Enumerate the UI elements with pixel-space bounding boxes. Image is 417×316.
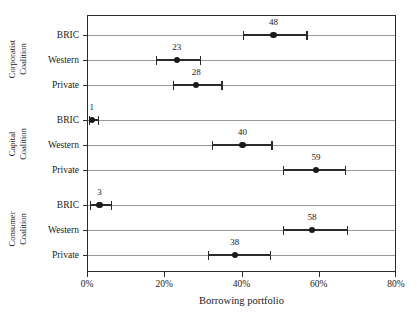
marker-dot: [239, 142, 246, 149]
x-axis-title: Borrowing portfolio: [87, 295, 396, 306]
marker-dot: [193, 82, 200, 89]
y-axis-tick: [83, 230, 88, 231]
point-value-label: 38: [230, 238, 239, 247]
gridline: [88, 60, 395, 61]
error-bar-cap-high: [270, 251, 271, 260]
y-axis-tick: [83, 35, 88, 36]
gridline: [88, 35, 395, 36]
gridline: [88, 120, 395, 121]
x-axis-tick-label: 60%: [310, 279, 327, 289]
gridline: [88, 170, 395, 171]
x-axis-tick: [164, 272, 165, 277]
point-value-label: 59: [311, 153, 320, 162]
point-value-label: 28: [192, 68, 201, 77]
error-bar-cap-low: [243, 31, 244, 40]
marker-dot: [174, 57, 181, 64]
y-axis-tick: [83, 145, 88, 146]
error-bar-cap-low: [212, 141, 213, 150]
plot-area: 4823281405935838: [87, 15, 396, 272]
error-bar-cap-low: [208, 251, 209, 260]
error-bar-cap-high: [221, 81, 222, 90]
error-bar-cap-high: [347, 226, 348, 235]
y-axis-label-capital-coalition-private: Private: [52, 165, 79, 175]
y-axis-tick: [83, 120, 88, 121]
marker-dot: [89, 117, 96, 124]
point-value-label: 40: [238, 128, 247, 137]
y-axis-label-corporatist-coalition-western: Western: [48, 55, 79, 65]
x-axis-tick: [242, 272, 243, 277]
marker-dot: [96, 202, 103, 209]
gridline: [88, 230, 395, 231]
x-axis-tick-label: 0%: [81, 279, 94, 289]
y-axis-tick: [83, 85, 88, 86]
gridline: [88, 205, 395, 206]
x-axis-tick-label: 80%: [387, 279, 404, 289]
y-axis-label-capital-coalition-western: Western: [48, 140, 79, 150]
error-bar-cap-high: [111, 201, 112, 210]
point-value-label: 23: [172, 43, 181, 52]
error-bar-cap-low: [283, 226, 284, 235]
error-bar-cap-high: [98, 116, 99, 125]
error-bar-cap-high: [200, 56, 201, 65]
y-axis-label-consumer-coalition-western: Western: [48, 225, 79, 235]
y-axis-label-corporatist-coalition-private: Private: [52, 80, 79, 90]
x-axis-tick: [395, 272, 396, 277]
point-value-label: 48: [269, 18, 278, 27]
error-bar-cap-low: [283, 166, 284, 175]
y-axis-tick: [83, 170, 88, 171]
x-axis-tick: [87, 272, 88, 277]
dot-whisker-chart: CorporatistCoalitionCapitalCoalitionCons…: [0, 0, 417, 316]
marker-dot: [232, 252, 239, 259]
y-axis-label-consumer-coalition-private: Private: [52, 250, 79, 260]
error-bar-cap-low: [156, 56, 157, 65]
point-value-label: 58: [308, 213, 317, 222]
x-axis-tick: [319, 272, 320, 277]
error-bar-cap-low: [90, 201, 91, 210]
y-axis-tick: [83, 60, 88, 61]
error-bar-cap-high: [271, 141, 272, 150]
error-bar-cap-high: [306, 31, 307, 40]
y-axis-label-corporatist-coalition-bric: BRIC: [57, 30, 79, 40]
gridline: [88, 85, 395, 86]
error-bar: [208, 254, 270, 255]
point-value-label: 3: [97, 188, 102, 197]
y-axis-tick: [83, 205, 88, 206]
y-axis-label-capital-coalition-bric: BRIC: [57, 115, 79, 125]
y-axis-category-labels: BRICWesternPrivateBRICWesternPrivateBRIC…: [0, 15, 83, 272]
x-axis-tick-label: 40%: [233, 279, 250, 289]
marker-dot: [270, 32, 277, 39]
y-axis-label-consumer-coalition-bric: BRIC: [57, 200, 79, 210]
x-axis: 0%20%40%60%80%: [87, 272, 396, 292]
point-value-label: 1: [90, 103, 95, 112]
y-axis-tick: [83, 255, 88, 256]
marker-dot: [309, 227, 316, 234]
marker-dot: [313, 167, 320, 174]
error-bar-cap-high: [345, 166, 346, 175]
x-axis-tick-label: 20%: [156, 279, 173, 289]
error-bar-cap-low: [173, 81, 174, 90]
